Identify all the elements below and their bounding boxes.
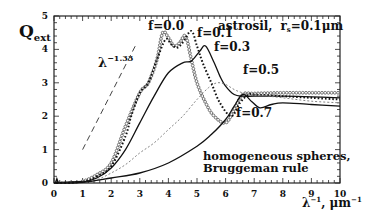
x-tick-label: 2 — [108, 189, 114, 199]
x-tick-label: 3 — [137, 189, 143, 199]
x-tick-label: 4 — [165, 189, 171, 199]
x-tick-label: 1 — [79, 189, 85, 199]
y-tick-label: 0 — [42, 178, 48, 188]
x-tick-label: 5 — [194, 189, 200, 199]
x-tick-label: 0 — [51, 189, 57, 199]
title-annotation: astrosil,rs=0.1μm — [218, 19, 343, 34]
x-tick-label: 7 — [251, 189, 257, 199]
y-axis-label: Qext — [19, 21, 51, 43]
x-tick-label: 8 — [280, 189, 286, 199]
y-tick-label: 3 — [42, 78, 48, 88]
y-tick-label: 1 — [42, 145, 48, 155]
x-axis-label: λ−1, μm−1 — [302, 195, 362, 210]
label-f03: f=0.3 — [214, 40, 250, 54]
y-tick-label: 4 — [42, 44, 48, 54]
label-f00: f=0.0 — [148, 19, 184, 33]
label-f05: f=0.5 — [243, 63, 279, 77]
y-tick-label: 5 — [42, 11, 48, 21]
power-law-label: λ−1.33 — [98, 53, 134, 70]
extinction-chart: 012345678910012345 Qext astrosil,rs=0.1μ… — [0, 0, 370, 224]
y-tick-label: 2 — [42, 111, 48, 121]
label-f01: f=0.1 — [197, 26, 233, 40]
label-f07: f=0.7 — [236, 106, 272, 120]
note-line2: Bruggeman rule — [203, 161, 309, 175]
x-tick-label: 6 — [222, 189, 228, 199]
